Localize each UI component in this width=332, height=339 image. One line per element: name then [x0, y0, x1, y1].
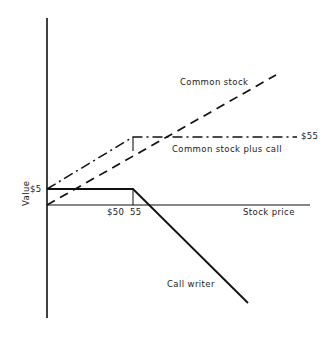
annotation-common-stock-plus-call: Common stock plus call [172, 145, 282, 154]
annotation-call-writer: Call writer [167, 280, 215, 289]
series-call-writer-line [47, 189, 248, 303]
x-tick-label-55: 55 [130, 208, 142, 217]
y-tick-label-5: $5 [30, 185, 42, 194]
chart-canvas [0, 0, 332, 339]
annotation-common-stock: Common stock [180, 78, 248, 87]
option-payoff-chart: Value $5 $50 55 Stock price Common stock… [0, 0, 332, 339]
x-tick-label-50: $50 [107, 208, 124, 217]
series-common-stock-line [47, 75, 276, 205]
x-axis-title: Stock price [243, 208, 295, 217]
annotation-cap-55: $55 [301, 132, 318, 141]
